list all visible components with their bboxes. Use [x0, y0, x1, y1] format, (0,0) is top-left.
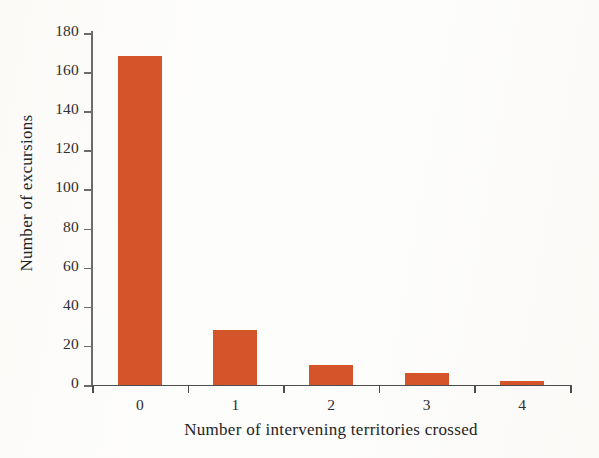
y-axis-tick-label: 120 [55, 139, 79, 157]
y-axis-tick-mark [84, 189, 92, 191]
y-axis-tick-mark [84, 72, 92, 74]
x-axis-tick-label: 2 [327, 396, 335, 414]
x-axis-tick-mark [92, 385, 94, 393]
y-axis-tick-mark [84, 111, 92, 113]
y-axis-tick-mark [84, 229, 92, 231]
x-axis-title: Number of intervening territories crosse… [92, 420, 570, 440]
x-axis-tick-label: 0 [136, 396, 144, 414]
y-axis-title: Number of excursions [12, 0, 42, 385]
x-axis-tick-mark [570, 385, 572, 393]
y-axis-tick-label: 100 [55, 178, 79, 196]
y-axis-tick-mark [84, 33, 92, 35]
x-axis-tick-label: 1 [232, 396, 240, 414]
y-axis-tick-label: 160 [55, 61, 79, 79]
x-axis-tick-label: 4 [518, 396, 526, 414]
y-axis-tick-mark [84, 150, 92, 152]
y-axis-tick-mark [84, 346, 92, 348]
bar-chart-figure: Number of excursions 0204060801001201401… [0, 0, 599, 458]
bar [118, 56, 162, 385]
plot-area [92, 33, 570, 385]
y-axis-tick-label: 140 [55, 100, 79, 118]
bar [213, 330, 257, 385]
y-axis-tick-label: 40 [63, 296, 79, 314]
y-axis-tick-label: 180 [55, 22, 79, 40]
x-axis-tick-mark [188, 385, 190, 393]
bar [405, 373, 449, 385]
y-axis-tick-label: 20 [63, 335, 79, 353]
x-axis-tick-mark [474, 385, 476, 393]
bar [309, 365, 353, 385]
y-axis-tick-mark [84, 268, 92, 270]
bar [500, 381, 544, 385]
y-axis-tick-label: 80 [63, 218, 79, 236]
x-axis-tick-mark [283, 385, 285, 393]
y-axis-tick-mark [84, 307, 92, 309]
y-axis-tick-label: 0 [71, 374, 79, 392]
y-axis-title-text: Number of excursions [17, 114, 37, 271]
x-axis-tick-mark [379, 385, 381, 393]
x-axis-tick-label: 3 [423, 396, 431, 414]
y-axis-tick-label: 60 [63, 257, 79, 275]
y-axis-tick-mark [84, 385, 92, 387]
